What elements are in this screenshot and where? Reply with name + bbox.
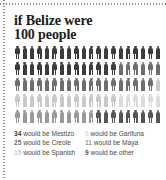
person-icon — [117, 109, 124, 123]
person-icon — [117, 77, 124, 91]
person-icon — [21, 109, 28, 123]
person-icon — [36, 77, 43, 91]
person-icon — [58, 45, 65, 59]
person-icon — [132, 45, 139, 59]
person-icon — [88, 77, 95, 91]
person-icon — [58, 77, 65, 91]
person-icon — [73, 109, 80, 123]
person-icon — [95, 109, 102, 123]
person-icon — [154, 45, 161, 59]
person-icon — [44, 93, 51, 107]
legend-item: 6 would be Garifuna — [85, 129, 164, 138]
content-area: if Belize were 100 people 34 would be Me… — [14, 14, 164, 157]
person-icon — [140, 93, 147, 107]
person-icon — [88, 61, 95, 75]
top-dotted-divider — [0, 3, 166, 5]
pictogram-row — [14, 45, 164, 60]
legend-item: 25 would be Creole — [14, 138, 85, 147]
person-icon — [154, 77, 161, 91]
person-icon — [103, 93, 110, 107]
person-icon — [14, 109, 21, 123]
person-icon — [21, 61, 28, 75]
person-icon — [29, 93, 36, 107]
person-icon — [103, 61, 110, 75]
person-icon — [95, 77, 102, 91]
person-icon — [51, 109, 58, 123]
pictogram-grid — [14, 45, 164, 124]
person-icon — [66, 93, 73, 107]
person-icon — [81, 61, 88, 75]
legend-item: 15 would be Spanish — [14, 148, 85, 157]
pictogram-row — [14, 93, 164, 108]
person-icon — [110, 61, 117, 75]
person-icon — [29, 61, 36, 75]
left-dotted-divider — [3, 0, 5, 180]
person-icon — [147, 93, 154, 107]
title-line-1: if Belize were — [14, 13, 92, 28]
person-icon — [44, 77, 51, 91]
title-line-2: 100 people — [14, 28, 164, 42]
person-icon — [125, 61, 132, 75]
person-icon — [117, 93, 124, 107]
person-icon — [36, 61, 43, 75]
legend-label: would be Garifuna — [89, 130, 144, 137]
person-icon — [81, 109, 88, 123]
person-icon — [14, 93, 21, 107]
legend-label: would be Creole — [21, 139, 70, 146]
person-icon — [154, 93, 161, 107]
person-icon — [66, 77, 73, 91]
person-icon — [140, 45, 147, 59]
person-icon — [88, 93, 95, 107]
legend-column-right: 6 would be Garifuna11 would be Maya9 wou… — [85, 129, 164, 157]
pictogram-row — [14, 109, 164, 124]
person-icon — [73, 61, 80, 75]
person-icon — [21, 93, 28, 107]
infographic-card: if Belize were 100 people 34 would be Me… — [0, 0, 166, 180]
legend-label: would be Spanish — [21, 149, 75, 156]
person-icon — [95, 93, 102, 107]
legend-column-left: 34 would be Mestizo25 would be Creole15 … — [14, 129, 85, 157]
legend-value: 11 — [85, 139, 92, 146]
person-icon — [140, 109, 147, 123]
person-icon — [110, 77, 117, 91]
legend-item: 11 would be Maya — [85, 138, 164, 147]
person-icon — [36, 93, 43, 107]
person-icon — [132, 109, 139, 123]
person-icon — [110, 109, 117, 123]
person-icon — [147, 61, 154, 75]
person-icon — [140, 77, 147, 91]
person-icon — [125, 109, 132, 123]
person-icon — [110, 93, 117, 107]
person-icon — [88, 45, 95, 59]
person-icon — [66, 61, 73, 75]
person-icon — [36, 109, 43, 123]
person-icon — [36, 45, 43, 59]
person-icon — [117, 61, 124, 75]
person-icon — [125, 45, 132, 59]
person-icon — [21, 45, 28, 59]
person-icon — [29, 45, 36, 59]
legend-item: 9 would be other — [85, 148, 164, 157]
person-icon — [103, 77, 110, 91]
person-icon — [95, 45, 102, 59]
person-icon — [66, 45, 73, 59]
legend-label: would be other — [89, 149, 134, 156]
person-icon — [66, 109, 73, 123]
legend-item: 34 would be Mestizo — [14, 129, 85, 138]
person-icon — [14, 77, 21, 91]
person-icon — [154, 109, 161, 123]
person-icon — [132, 77, 139, 91]
person-icon — [29, 77, 36, 91]
person-icon — [73, 93, 80, 107]
person-icon — [58, 109, 65, 123]
person-icon — [44, 109, 51, 123]
person-icon — [125, 77, 132, 91]
person-icon — [132, 93, 139, 107]
person-icon — [117, 45, 124, 59]
pictogram-row — [14, 61, 164, 76]
person-icon — [73, 77, 80, 91]
person-icon — [125, 93, 132, 107]
person-icon — [44, 61, 51, 75]
page-title: if Belize were 100 people — [14, 14, 164, 41]
person-icon — [132, 61, 139, 75]
